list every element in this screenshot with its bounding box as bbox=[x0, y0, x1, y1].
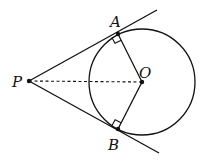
point-A bbox=[116, 32, 120, 36]
geometry-diagram: P A O B bbox=[0, 0, 200, 165]
label-A: A bbox=[108, 13, 121, 31]
tangent-line-PA bbox=[29, 10, 157, 81]
label-O: O bbox=[139, 64, 151, 82]
label-B: B bbox=[107, 136, 119, 154]
label-P: P bbox=[11, 73, 23, 91]
radius-OB bbox=[118, 82, 142, 129]
tangent-line-PB bbox=[29, 81, 159, 153]
dashed-segment-PO bbox=[29, 81, 142, 82]
diagram-svg: P A O B bbox=[0, 0, 200, 165]
point-B bbox=[116, 127, 120, 131]
point-P bbox=[27, 79, 31, 83]
